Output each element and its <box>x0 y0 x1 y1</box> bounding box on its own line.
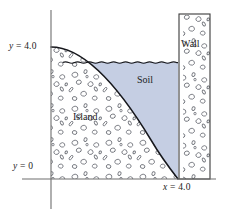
axis-label-x-right-value: = 4.0 <box>167 182 190 192</box>
axis-label-y-zero: y = 0 <box>13 161 33 171</box>
region-label-wall: Wall <box>181 38 200 49</box>
axis-label-y-zero-value: = 0 <box>17 161 33 171</box>
region-label-island: Island <box>73 111 97 122</box>
axis-label-y-top: y = 4.0 <box>9 41 37 51</box>
region-label-soil: Soil <box>137 74 153 85</box>
diagram-svg <box>0 0 226 219</box>
axis-label-y-top-value: = 4.0 <box>13 41 36 51</box>
figure-container: y = 4.0 y = 0 x = 4.0 Soil Island Wall <box>0 0 226 219</box>
axis-label-x-right: x = 4.0 <box>163 182 191 192</box>
